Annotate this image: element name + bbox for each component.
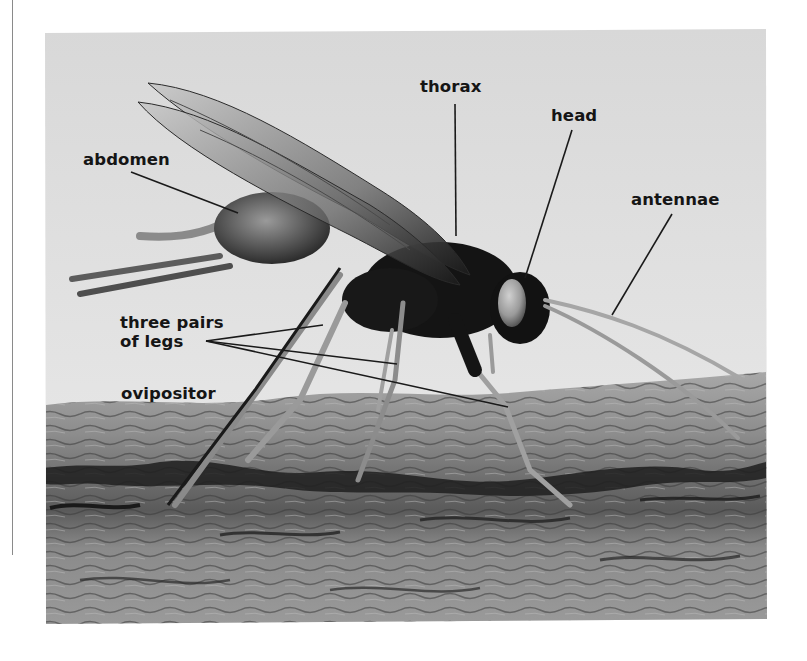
label-thorax: thorax xyxy=(420,77,481,96)
label-legs-line2: of legs xyxy=(120,332,183,351)
label-head: head xyxy=(551,106,597,125)
label-abdomen: abdomen xyxy=(83,150,170,169)
label-antennae: antennae xyxy=(631,190,720,209)
wasp-anatomy-figure: thorax head abdomen antennae three pairs… xyxy=(0,0,807,661)
thorax-leader-line xyxy=(455,104,456,236)
label-ovipositor: ovipositor xyxy=(121,384,216,403)
label-legs-line1: three pairs xyxy=(120,313,224,332)
